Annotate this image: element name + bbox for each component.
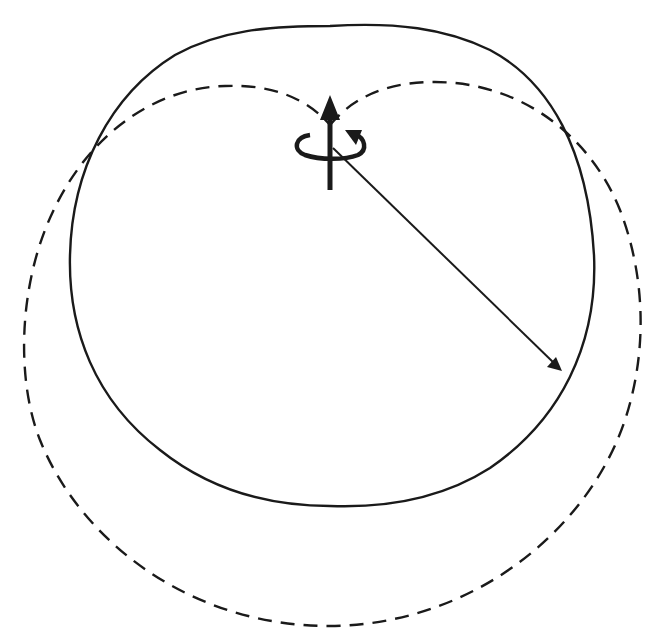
diagram-canvas: Radiation pattern of a spinning dipole/a… <box>0 0 655 638</box>
radius-arrow-icon <box>333 148 562 371</box>
solid-pattern-curve <box>70 25 594 506</box>
axis-arrow-icon <box>320 95 340 190</box>
